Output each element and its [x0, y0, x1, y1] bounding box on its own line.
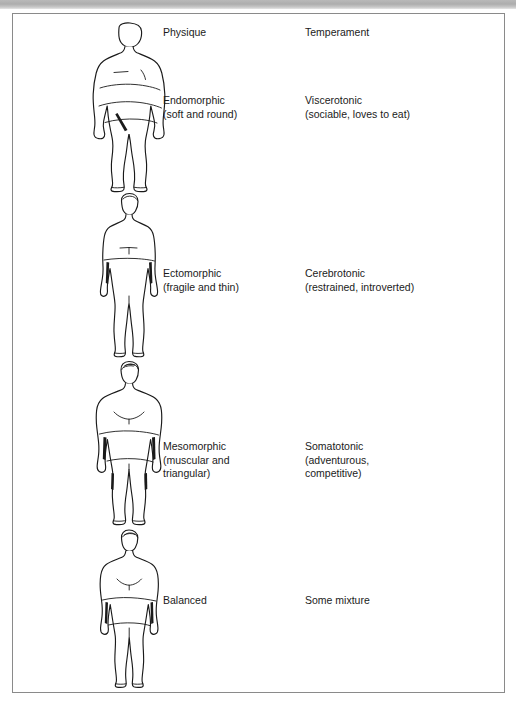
physique-detail: (muscular and [163, 454, 303, 468]
temperament-detail: (restrained, introverted) [305, 281, 480, 295]
body-type-row: Mesomorphic (muscular and triangular) So… [13, 360, 506, 528]
physique-detail: (soft and round) [163, 108, 303, 122]
temperament-name: Somatotonic [305, 440, 480, 454]
temperament-detail-2: competitive) [305, 467, 480, 481]
physique-detail: (fragile and thin) [163, 281, 303, 295]
physique-description: Balanced [163, 594, 303, 608]
body-type-row: Ectomorphic (fragile and thin) Cerebroto… [13, 192, 506, 360]
physique-description: Ectomorphic (fragile and thin) [163, 267, 303, 294]
physique-name: Endomorphic [163, 94, 303, 108]
physique-description: Endomorphic (soft and round) [163, 94, 303, 121]
temperament-detail: (sociable, loves to eat) [305, 108, 480, 122]
physique-name: Mesomorphic [163, 440, 303, 454]
physique-name: Ectomorphic [163, 267, 303, 281]
balanced-body-figure [73, 528, 191, 688]
figure-page: Physique Temperament [0, 0, 516, 703]
temperament-detail: (adventurous, [305, 454, 480, 468]
figure-frame: Physique Temperament [12, 13, 505, 693]
physique-name: Balanced [163, 594, 303, 608]
physique-description: Mesomorphic (muscular and triangular) [163, 440, 303, 481]
temperament-description: Somatotonic (adventurous, competitive) [305, 440, 480, 481]
body-type-row: Balanced Some mixture [13, 528, 506, 694]
temperament-description: Cerebrotonic (restrained, introverted) [305, 267, 480, 294]
scan-artifact-band [0, 0, 516, 9]
body-type-row: Endomorphic (soft and round) Viscerotoni… [13, 22, 506, 192]
temperament-description: Some mixture [305, 594, 480, 608]
temperament-name: Viscerotonic [305, 94, 480, 108]
temperament-description: Viscerotonic (sociable, loves to eat) [305, 94, 480, 121]
temperament-name: Some mixture [305, 594, 480, 608]
temperament-name: Cerebrotonic [305, 267, 480, 281]
physique-detail-2: triangular) [163, 467, 303, 481]
